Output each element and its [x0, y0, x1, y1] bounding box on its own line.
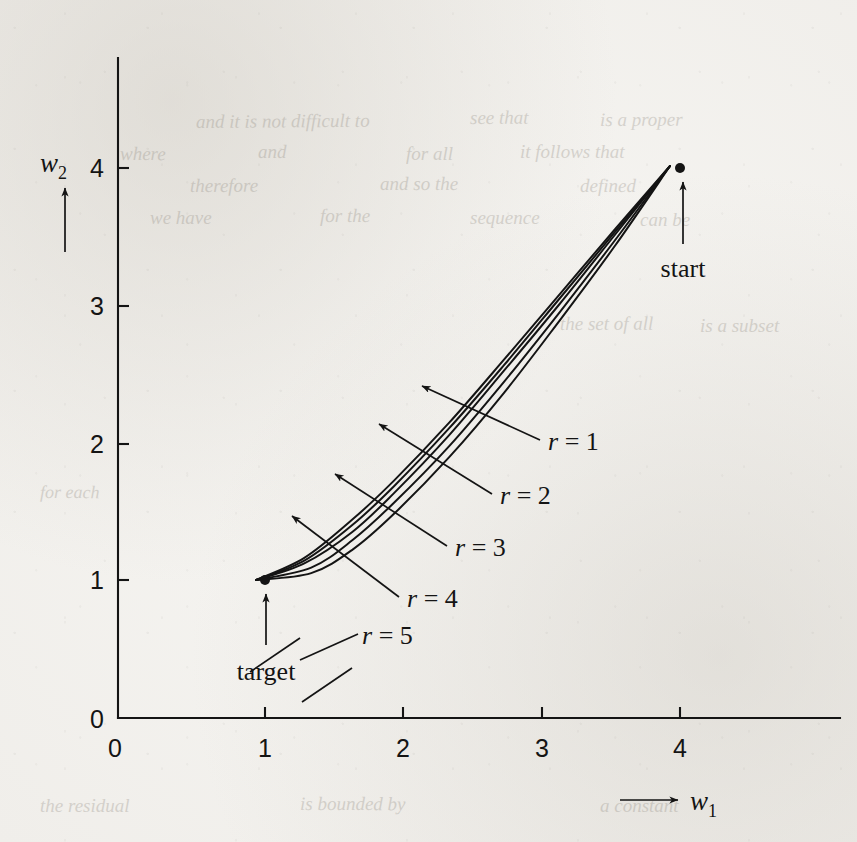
figure-page: and it is not difficult tosee thatis a p…	[0, 0, 857, 842]
bleed-through-text: is a subset	[700, 315, 780, 336]
x-ticklabel-0: 0	[108, 734, 122, 762]
curve-annotations: r = 1 r = 2 r = 3 r = 4 r = 5	[250, 386, 599, 702]
bleed-through-text: sequence	[470, 207, 540, 228]
bleed-through-text: and it is not difficult to	[196, 110, 370, 132]
bleed-through-text: is bounded by	[300, 793, 406, 814]
start-label: start	[661, 254, 707, 283]
curve-label-r4: r = 4	[407, 584, 458, 613]
bleed-through-text: therefore	[190, 175, 258, 196]
y-ticklabel-0: 0	[90, 705, 104, 733]
y-ticklabel-2: 2	[90, 430, 104, 458]
y-axis-name: w2	[40, 148, 67, 183]
bleed-through-text: we have	[150, 207, 212, 228]
bleed-through-text: and so the	[380, 173, 458, 194]
curve-label-r3: r = 3	[455, 533, 506, 562]
bleed-through-text: for the	[320, 205, 370, 226]
curve-label-r1: r = 1	[548, 427, 599, 456]
y-ticklabel-3: 3	[90, 292, 104, 320]
x-ticklabel-3: 3	[535, 734, 549, 762]
x-axis-name: w1	[690, 786, 717, 821]
y-axis-name-group: w2	[40, 148, 67, 252]
bleed-through-text: see that	[470, 107, 529, 128]
y-ticklabel-4: 4	[90, 154, 104, 182]
bleed-through-text: the set of all	[560, 313, 653, 334]
x-ticklabel-2: 2	[396, 734, 410, 762]
bleed-through-text: for all	[406, 143, 453, 164]
bleed-through-text: defined	[580, 175, 636, 196]
trajectory-curve-r-2	[256, 166, 670, 580]
trajectory-curve-r-5	[256, 166, 670, 580]
bleed-through-text: it follows that	[520, 141, 625, 162]
bleed-through-text: for each	[40, 482, 100, 502]
x-ticklabel-1: 1	[258, 734, 272, 762]
bleed-through-text: a constant	[600, 795, 679, 816]
leader-tail-r3	[302, 668, 352, 702]
bleed-through-text: where	[120, 143, 166, 164]
bleed-through-text: and	[258, 141, 287, 162]
curve-label-r5: r = 5	[362, 621, 413, 650]
bleed-through-text: the residual	[40, 795, 130, 816]
start-point-dot	[675, 163, 685, 173]
curve-label-r2: r = 2	[500, 481, 551, 510]
bleed-through-text: is a proper	[600, 109, 683, 130]
trajectory-curve-r-4	[256, 166, 670, 580]
leader-line-r5	[300, 634, 358, 660]
trajectory-curve-r-3	[256, 166, 670, 580]
target-point-dot	[260, 575, 270, 585]
bleed-through-text-layer: and it is not difficult tosee thatis a p…	[40, 107, 780, 816]
trajectory-plot: and it is not difficult tosee thatis a p…	[0, 0, 857, 842]
y-ticklabel-1: 1	[90, 566, 104, 594]
tick-labels: 4 3 2 1 0 0 1 2 3 4	[90, 154, 687, 762]
x-ticklabel-4: 4	[673, 734, 687, 762]
trajectory-curve-r-1	[256, 166, 670, 580]
trajectory-curves	[256, 166, 670, 580]
